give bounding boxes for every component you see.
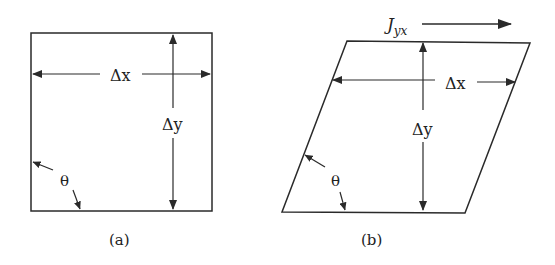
dx-label-b: Δx xyxy=(445,74,466,93)
dy-label-b: Δy xyxy=(412,120,433,139)
theta-label-a: θ xyxy=(60,172,69,190)
square-element xyxy=(31,33,212,211)
dx-label-a: Δx xyxy=(110,66,131,85)
parallelogram-element xyxy=(282,41,530,213)
theta-label-b: θ xyxy=(331,172,340,190)
caption-a: (a) xyxy=(109,231,130,249)
theta-marker-a xyxy=(33,162,80,209)
shear-diagram: Δx Δy θ (a) Jyx xyxy=(0,0,555,265)
panel-a: Δx Δy θ (a) xyxy=(31,33,212,249)
caption-b: (b) xyxy=(361,231,382,249)
panel-b: Jyx Δx Δy θ (b) xyxy=(282,14,530,249)
dx-arrow-b xyxy=(333,80,515,82)
flux-label: Jyx xyxy=(384,14,408,38)
dy-label-a: Δy xyxy=(162,115,183,134)
